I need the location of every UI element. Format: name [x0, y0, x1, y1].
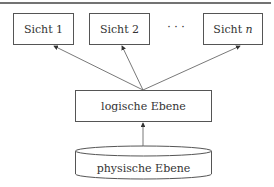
view-label-2: Sicht 2: [100, 23, 139, 36]
view-box-2: Sicht 2: [90, 14, 150, 45]
physical-layer-cylinder: physische Ebene: [76, 146, 212, 179]
view-arrows: [54, 46, 240, 90]
view-label-n: Sicht n: [213, 23, 252, 36]
view-box-1: Sicht 1: [14, 14, 74, 45]
logical-layer-box: logische Ebene: [76, 91, 212, 122]
physical-layer-label: physische Ebene: [97, 162, 191, 175]
view-box-n: Sicht n: [204, 14, 263, 45]
ellipsis: · · ·: [167, 21, 184, 34]
logical-layer-label: logische Ebene: [101, 100, 186, 113]
view-label-1: Sicht 1: [24, 23, 63, 36]
three-level-architecture-diagram: Sicht 1 Sicht 2 · · · Sicht n logische E…: [0, 0, 274, 187]
